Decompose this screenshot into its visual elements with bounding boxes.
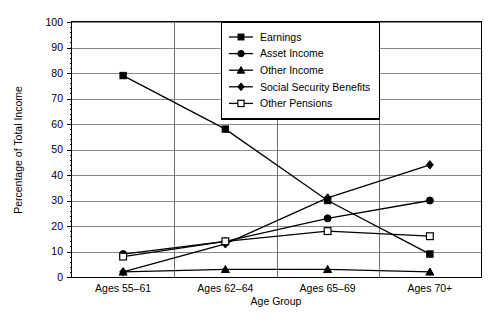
line-chart: 0102030405060708090100 Ages 55–61Ages 62… (0, 0, 498, 323)
data-point-marker (222, 126, 228, 132)
y-axis-title: Percentage of Total Income (12, 86, 24, 214)
data-point-marker (238, 50, 244, 56)
y-axis-tick-label: 40 (51, 169, 63, 181)
x-axis-tick-label: Ages 55–61 (95, 282, 151, 294)
data-point-marker (120, 253, 127, 260)
y-axis-tick-label: 60 (51, 118, 63, 130)
x-axis-tick-label: Ages 62–64 (197, 282, 253, 294)
legend: EarningsAsset IncomeOther IncomeSocial S… (222, 23, 380, 119)
legend-label: Other Income (260, 64, 324, 76)
y-axis-tick-label: 0 (57, 271, 63, 283)
y-axis-tick-label: 80 (51, 67, 63, 79)
data-point-marker (238, 100, 244, 106)
data-point-marker (426, 197, 433, 204)
legend-label: Asset Income (260, 47, 324, 59)
data-point-marker (426, 233, 433, 240)
legend-label: Earnings (260, 31, 301, 43)
x-axis-tick-label: Ages 65–69 (300, 282, 356, 294)
chart-container: 0102030405060708090100 Ages 55–61Ages 62… (0, 0, 498, 323)
legend-label: Social Security Benefits (260, 81, 370, 93)
data-point-marker (324, 228, 331, 235)
data-point-marker (222, 238, 229, 245)
legend-label: Other Pensions (260, 97, 332, 109)
y-axis-tick-label: 30 (51, 194, 63, 206)
y-axis-tick-label: 10 (51, 245, 63, 257)
x-axis-tick-label: Ages 70+ (408, 282, 453, 294)
data-point-marker (427, 251, 433, 257)
data-point-marker (120, 72, 126, 78)
data-point-marker (238, 34, 244, 40)
y-axis-tick-label: 90 (51, 41, 63, 53)
data-point-marker (324, 215, 331, 222)
y-axis-tick-label: 50 (51, 143, 63, 155)
y-axis-tick-label: 100 (45, 16, 63, 28)
y-axis-tick-label: 20 (51, 220, 63, 232)
x-axis-title: Age Group (251, 295, 302, 307)
y-axis-tick-label: 70 (51, 92, 63, 104)
